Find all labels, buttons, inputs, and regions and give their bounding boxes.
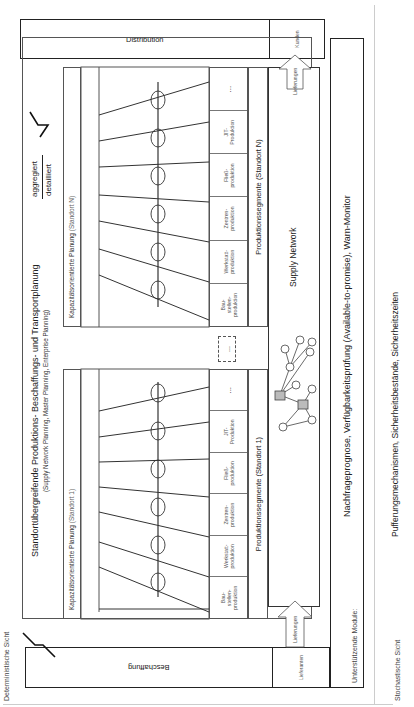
support-modules-box: Unterstützende Module: Nachfrageprognose… <box>330 38 364 688</box>
support-modules-text: Nachfrageprognose, Verfügbarkeitsprüfung… <box>342 195 352 517</box>
stochastic-view-label: Stochastische Sicht <box>394 640 401 701</box>
diagram-canvas: Deterministische Sicht Beschaffung Liefe… <box>0 0 414 707</box>
support-modules-label: Unterstützende Module: <box>351 609 358 683</box>
stochastic-methods-text: Pufferungsmechanismen, Sicherheitsbestän… <box>390 292 400 537</box>
inbound-deliveries-label: Lieferungen <box>292 616 298 643</box>
outbound-deliveries-label: Lieferungen <box>292 68 298 95</box>
stochastic-view-divider <box>374 5 375 705</box>
